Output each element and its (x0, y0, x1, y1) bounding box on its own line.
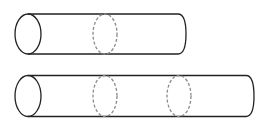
cylinders-diagram (0, 0, 268, 125)
long-cylinder (15, 76, 254, 117)
short-cylinder (15, 14, 186, 54)
short-cylinder-dashed-section (93, 14, 117, 54)
short-cylinder-body (28, 14, 186, 54)
short-cylinder-left-end (15, 14, 41, 54)
long-cylinder-body (28, 76, 254, 117)
long-cylinder-dashed-section-2 (167, 76, 191, 117)
long-cylinder-left-end (15, 76, 41, 117)
long-cylinder-dashed-section-1 (93, 76, 117, 117)
